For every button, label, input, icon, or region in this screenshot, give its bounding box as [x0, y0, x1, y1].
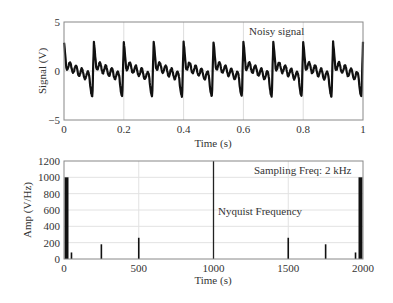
signal-xtick-label: 0.6: [237, 123, 251, 135]
spectrum-xtick-label: 0: [61, 262, 67, 274]
spectrum-ylabel: Amp (V/Hz): [21, 182, 34, 238]
spectrum-ytick-label: 800: [44, 188, 61, 200]
spectrum-bar: [359, 177, 363, 259]
signal-xlabel: Time (s): [194, 137, 232, 150]
spectrum-ytick-label: 0: [55, 253, 61, 265]
signal-xtick-label: 0.2: [117, 123, 131, 135]
spectrum-xtick-label: 1000: [203, 262, 226, 274]
spectrum-bar: [355, 252, 357, 259]
signal-ytick-label: −5: [48, 114, 60, 126]
spectrum-bar: [65, 177, 69, 259]
spectrum-xtick-label: 500: [131, 262, 148, 274]
spectrum-bar: [287, 238, 289, 259]
figure: 00.20.40.60.81−505 Noisy signal Time (s)…: [0, 0, 393, 303]
signal-xtick-label: 0: [61, 123, 67, 135]
spectrum-bar: [138, 238, 140, 259]
spectrum-xtick-label: 2000: [352, 262, 375, 274]
signal-xtick-label: 0.8: [296, 123, 310, 135]
spectrum-bar: [71, 252, 73, 259]
nyquist-annotation: Nyquist Frequency: [218, 205, 303, 217]
sampling-freq-annotation: Sampling Freq: 2 kHz: [254, 164, 352, 176]
spectrum-ytick-label: 1000: [38, 171, 61, 183]
signal-xtick-label: 0.4: [177, 123, 191, 135]
spectrum-plot: 0200400600800100012000500100015002000 Sa…: [21, 155, 375, 287]
signal-ytick-label: 5: [55, 16, 61, 28]
spectrum-bar: [325, 244, 327, 259]
signal-ylabel: Signal (V): [36, 48, 49, 94]
spectrum-xtick-label: 1500: [277, 262, 300, 274]
signal-annotation: Noisy signal: [249, 25, 304, 37]
spectrum-bar: [101, 244, 103, 259]
spectrum-ytick-label: 200: [44, 237, 61, 249]
signal-plot: 00.20.40.60.81−505 Noisy signal Time (s)…: [36, 16, 366, 150]
spectrum-ytick-label: 1200: [38, 155, 61, 167]
spectrum-ytick-label: 600: [44, 204, 61, 216]
signal-ytick-label: 0: [55, 65, 61, 77]
spectrum-xlabel: Time (s): [194, 274, 232, 287]
signal-xtick-label: 1: [360, 123, 366, 135]
spectrum-ytick-label: 400: [44, 220, 61, 232]
